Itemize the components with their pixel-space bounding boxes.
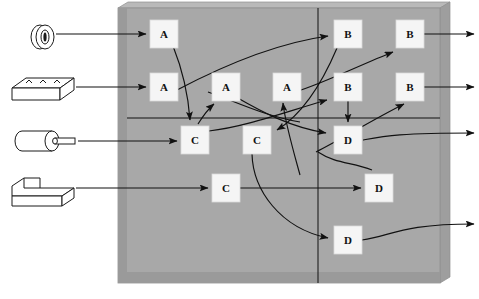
node-d-box[interactable]: D bbox=[334, 226, 362, 254]
node-label: A bbox=[160, 28, 168, 40]
node-a-box[interactable]: A bbox=[150, 20, 178, 48]
panel-left-inner-edge bbox=[118, 8, 127, 283]
slab-block-icon bbox=[12, 78, 74, 100]
node-label: C bbox=[253, 134, 261, 146]
node-label: A bbox=[222, 81, 230, 93]
node-label: C bbox=[222, 182, 230, 194]
node-label: B bbox=[406, 81, 414, 93]
panel-top-bevel bbox=[118, 2, 450, 8]
panel-bottom-inner-edge bbox=[118, 272, 440, 283]
node-d-box[interactable]: D bbox=[365, 174, 393, 202]
node-b-box[interactable]: B bbox=[396, 73, 424, 101]
notched-block-icon bbox=[12, 178, 74, 206]
node-b-box[interactable]: B bbox=[334, 20, 362, 48]
panel-right-bevel bbox=[440, 2, 450, 283]
node-c-box[interactable]: C bbox=[243, 126, 271, 154]
node-a-box[interactable]: A bbox=[150, 73, 178, 101]
node-label: D bbox=[375, 182, 383, 194]
node-label: A bbox=[283, 81, 291, 93]
node-label: B bbox=[344, 81, 352, 93]
panel-face bbox=[118, 8, 440, 283]
node-a-box[interactable]: A bbox=[212, 73, 240, 101]
node-c-box[interactable]: C bbox=[181, 126, 209, 154]
node-b-box[interactable]: B bbox=[334, 73, 362, 101]
node-d-box[interactable]: D bbox=[334, 126, 362, 154]
cylinder-shaft-icon bbox=[15, 131, 75, 151]
routing-diagram-canvas: AAAABBBBCCDCDD bbox=[0, 0, 479, 299]
node-label: B bbox=[406, 28, 414, 40]
node-a-box[interactable]: A bbox=[273, 73, 301, 101]
node-label: D bbox=[344, 134, 352, 146]
node-label: A bbox=[160, 81, 168, 93]
diagram-root: AAAABBBBCCDCDD bbox=[0, 0, 479, 299]
washer-ring-icon bbox=[31, 25, 54, 49]
node-c-box[interactable]: C bbox=[212, 174, 240, 202]
node-label: D bbox=[344, 234, 352, 246]
node-b-box[interactable]: B bbox=[396, 20, 424, 48]
node-label: B bbox=[344, 28, 352, 40]
node-label: C bbox=[191, 134, 199, 146]
